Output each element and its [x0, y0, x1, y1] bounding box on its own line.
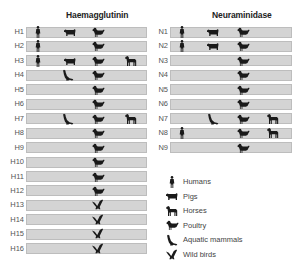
- subtype-bar: [170, 142, 292, 153]
- wildbird-icon: [91, 199, 105, 211]
- subtype-bar: [26, 157, 147, 168]
- aquatic-icon: [61, 113, 75, 125]
- poultry-icon: [91, 69, 105, 81]
- legend-label: Wild birds: [183, 250, 216, 259]
- subtype-bar: [26, 185, 147, 196]
- row-label: H11: [2, 171, 24, 183]
- poultry-icon: [91, 84, 105, 96]
- pig-icon: [206, 26, 220, 38]
- poultry-icon: [91, 171, 105, 183]
- human-icon: [31, 55, 45, 67]
- row-label: H15: [2, 228, 24, 240]
- subtype-bar: [170, 84, 292, 95]
- row-label: H4: [2, 69, 24, 81]
- row-label: H1: [2, 26, 24, 38]
- row-label: N6: [146, 98, 168, 110]
- subtype-bar: [26, 142, 147, 153]
- subtype-bar: [26, 128, 147, 139]
- poultry-icon: [236, 55, 250, 67]
- poultry-icon: [91, 26, 105, 38]
- poultry-icon: [236, 84, 250, 96]
- row-label: H8: [2, 127, 24, 139]
- legend-item-human: Humans: [165, 175, 211, 188]
- legend-item-poultry: Poultry: [165, 219, 206, 232]
- human-icon: [31, 40, 45, 52]
- legend-item-pig: Pigs: [165, 190, 198, 203]
- horse-icon: [266, 127, 280, 139]
- poultry-icon: [236, 40, 250, 52]
- row-label: H13: [2, 199, 24, 211]
- subtype-bar: [26, 243, 147, 254]
- poultry-icon: [236, 127, 250, 139]
- poultry-icon: [236, 142, 250, 154]
- poultry-icon: [91, 142, 105, 154]
- human-icon: [175, 127, 189, 139]
- human-icon: [175, 26, 189, 38]
- row-label: H9: [2, 142, 24, 154]
- poultry-icon: [236, 69, 250, 81]
- row-label: N8: [146, 127, 168, 139]
- subtype-bar: [170, 99, 292, 110]
- poultry-icon: [91, 185, 105, 197]
- poultry-icon: [236, 113, 250, 125]
- row-label: N2: [146, 40, 168, 52]
- row-label: H10: [2, 156, 24, 168]
- poultry-icon: [91, 55, 105, 67]
- row-label: H12: [2, 185, 24, 197]
- poultry-icon: [91, 98, 105, 110]
- poultry-icon: [91, 127, 105, 139]
- horse-icon: [124, 113, 138, 125]
- legend-label: Pigs: [183, 192, 198, 201]
- row-label: N7: [146, 113, 168, 125]
- aquatic-icon: [165, 234, 179, 246]
- row-label: N4: [146, 69, 168, 81]
- subtype-bar: [170, 55, 292, 66]
- poultry-icon: [236, 98, 250, 110]
- subtype-bar: [170, 70, 292, 81]
- horse-icon: [124, 55, 138, 67]
- poultry-icon: [165, 219, 179, 231]
- aquatic-icon: [61, 69, 75, 81]
- row-label: N5: [146, 84, 168, 96]
- haemagglutinin-title: Haemagglutinin: [66, 10, 128, 20]
- subtype-bar: [26, 99, 147, 110]
- pig-icon: [165, 190, 179, 202]
- poultry-icon: [91, 40, 105, 52]
- human-icon: [175, 40, 189, 52]
- horse-icon: [266, 113, 280, 125]
- row-label: H16: [2, 243, 24, 255]
- subtype-bar: [26, 70, 147, 81]
- subtype-bar: [26, 171, 147, 182]
- row-label: N3: [146, 55, 168, 67]
- legend-label: Aquatic mammals: [183, 235, 243, 244]
- legend-item-horse: Horses: [165, 204, 207, 217]
- legend-label: Humans: [183, 177, 211, 186]
- human-icon: [165, 176, 179, 188]
- row-label: H2: [2, 40, 24, 52]
- pig-icon: [206, 40, 220, 52]
- legend-label: Poultry: [183, 221, 206, 230]
- wildbird-icon: [165, 249, 179, 261]
- row-label: H14: [2, 214, 24, 226]
- row-label: H3: [2, 55, 24, 67]
- legend-item-aquatic: Aquatic mammals: [165, 233, 243, 246]
- pig-icon: [63, 26, 77, 38]
- row-label: H7: [2, 113, 24, 125]
- neuraminidase-title: Neuraminidase: [212, 10, 272, 20]
- horse-icon: [165, 205, 179, 217]
- subtype-bar: [26, 200, 147, 211]
- row-label: H5: [2, 84, 24, 96]
- subtype-bar: [26, 84, 147, 95]
- row-label: H6: [2, 98, 24, 110]
- human-icon: [31, 26, 45, 38]
- poultry-icon: [236, 26, 250, 38]
- pig-icon: [63, 55, 77, 67]
- wildbird-icon: [91, 214, 105, 226]
- row-label: N1: [146, 26, 168, 38]
- wildbird-icon: [91, 228, 105, 240]
- subtype-bar: [26, 214, 147, 225]
- poultry-icon: [91, 156, 105, 168]
- legend-label: Horses: [183, 206, 207, 215]
- subtype-bar: [26, 229, 147, 240]
- poultry-icon: [91, 113, 105, 125]
